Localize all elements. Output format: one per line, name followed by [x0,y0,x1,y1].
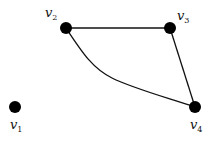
label-v1-sub: 1 [17,125,22,134]
node-v3 [164,22,176,34]
label-v3-sub: 3 [184,16,189,25]
label-v4-sub: 4 [197,125,202,134]
label-v4: v4 [190,118,202,134]
edge-v2-v4 [66,28,195,107]
label-v2: v2 [45,6,57,22]
node-v2 [60,22,72,34]
label-v2-sub: 2 [52,13,57,22]
node-v4 [189,101,201,113]
edge-v3-v4 [170,28,195,107]
label-v3: v3 [177,9,189,25]
label-v1: v1 [10,118,22,134]
node-v1 [9,101,21,113]
